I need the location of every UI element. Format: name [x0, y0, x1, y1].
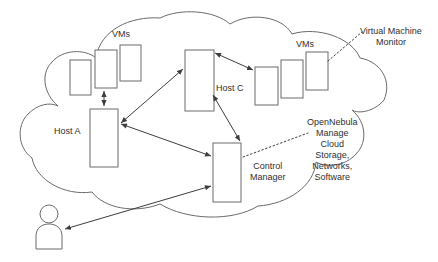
diagram-canvas: VMs VMs Host A Host C Control Manager Vi…: [0, 0, 438, 262]
vm-box-right-2: [281, 60, 303, 98]
connector-host-c-to-vm-right-1: [215, 53, 253, 70]
vm-box-right-1: [255, 67, 278, 105]
vm-box-left-1: [70, 60, 91, 95]
label-control-manager: Control Manager: [250, 161, 286, 183]
connector-host-c-to-control-manager: [213, 95, 240, 141]
label-vms-left: VMs: [112, 29, 130, 40]
label-virtual-machine-monitor: Virtual Machine Monitor: [360, 26, 422, 48]
vm-box-left-3: [120, 45, 141, 81]
host-a-box: [90, 109, 118, 167]
user-actor-icon: [36, 205, 62, 249]
label-opennebula: OpenNebula Manage Cloud Storage, Network…: [307, 117, 358, 183]
vm-box-left-2: [95, 50, 117, 88]
cloud-outline: [20, 12, 387, 217]
leader-virtual-machine-monitor: [328, 32, 362, 61]
control-manager-box: [213, 143, 241, 202]
connector-host-a-to-control-manager: [121, 124, 211, 156]
label-vms-right: VMs: [296, 39, 314, 50]
vm-box-right-3: [306, 52, 328, 90]
host-c-box: [185, 50, 214, 111]
label-host-c: Host C: [216, 83, 244, 94]
label-host-a: Host A: [54, 126, 81, 137]
leader-opennebula: [243, 133, 308, 157]
